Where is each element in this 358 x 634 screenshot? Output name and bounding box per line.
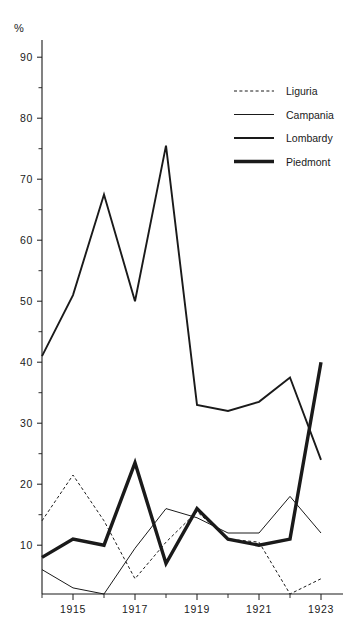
y-axis-tick-label: 60	[20, 234, 33, 246]
y-axis-tick-label: 40	[20, 356, 33, 368]
y-axis-tick-label: 50	[20, 295, 33, 307]
series-line-piedmont	[42, 362, 321, 563]
x-axis-tick-label: 1919	[184, 603, 210, 615]
x-axis-tick-label: 1915	[60, 603, 86, 615]
y-axis-tick-label: 30	[20, 417, 33, 429]
y-axis-tick-label: 20	[20, 478, 33, 490]
series-line-lombardy	[42, 146, 321, 460]
y-axis-unit-label: %	[14, 22, 24, 34]
legend-label-liguria: Liguria	[286, 85, 318, 97]
y-axis-tick-label: 70	[20, 173, 33, 185]
chart-canvas: %10203040506070809019151917191919211923L…	[0, 0, 358, 634]
series-line-campania	[42, 496, 321, 594]
legend-label-piedmont: Piedmont	[286, 156, 330, 168]
legend-label-lombardy: Lombardy	[286, 132, 333, 144]
y-axis-tick-label: 10	[20, 539, 33, 551]
y-axis-tick-label: 80	[20, 112, 33, 124]
legend-label-campania: Campania	[286, 109, 334, 121]
line-chart: %10203040506070809019151917191919211923L…	[0, 0, 358, 634]
x-axis-tick-label: 1921	[246, 603, 272, 615]
x-axis-tick-label: 1923	[308, 603, 334, 615]
x-axis-tick-label: 1917	[122, 603, 148, 615]
y-axis-tick-label: 90	[20, 51, 33, 63]
